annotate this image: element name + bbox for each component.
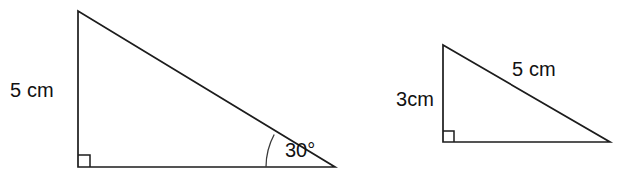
small-triangle-vertical-leg-label: 3cm bbox=[396, 89, 434, 109]
large-triangle-vertical-leg-label: 5 cm bbox=[10, 80, 54, 100]
small-triangle-hypotenuse-label: 5 cm bbox=[512, 59, 556, 79]
large-triangle-angle-arc bbox=[266, 135, 274, 168]
small-triangle-right-angle-icon bbox=[443, 131, 454, 142]
geometry-figure: 5 cm 30° 3cm 5 cm bbox=[0, 0, 637, 176]
figure-canvas bbox=[0, 0, 637, 176]
large-triangle-angle-label: 30° bbox=[285, 140, 315, 160]
large-triangle-right-angle-icon bbox=[78, 155, 90, 167]
